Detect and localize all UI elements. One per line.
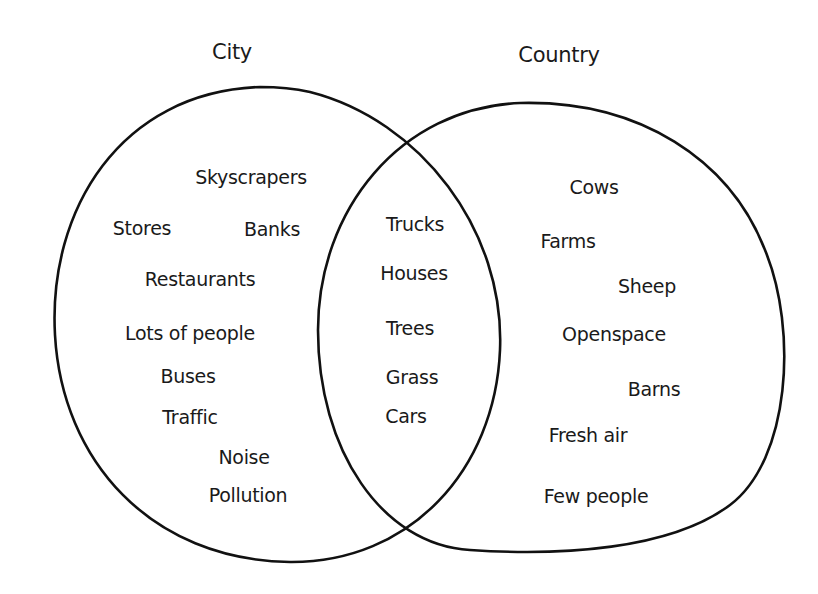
- city-item-noise: Noise: [218, 446, 269, 468]
- city-item-restaurants: Restaurants: [145, 268, 256, 290]
- both-item-houses: Houses: [380, 262, 448, 284]
- both-item-cars: Cars: [385, 405, 426, 427]
- country-item-farms: Farms: [540, 230, 595, 252]
- city-item-pollution: Pollution: [209, 484, 288, 506]
- city-set-title: City: [212, 40, 252, 64]
- both-item-grass: Grass: [386, 366, 438, 388]
- both-item-trucks: Trucks: [386, 213, 444, 235]
- country-item-sheep: Sheep: [618, 275, 676, 297]
- country-item-openspace: Openspace: [562, 323, 666, 345]
- city-item-banks: Banks: [244, 218, 300, 240]
- city-item-buses: Buses: [160, 365, 215, 387]
- city-item-stores: Stores: [113, 217, 171, 239]
- country-item-barns: Barns: [628, 378, 681, 400]
- country-item-cows: Cows: [569, 176, 618, 198]
- city-item-traffic: Traffic: [162, 406, 217, 428]
- city-item-lots-of-people: Lots of people: [125, 322, 255, 344]
- both-item-trees: Trees: [386, 317, 434, 339]
- venn-diagram: [0, 0, 818, 594]
- city-item-skyscrapers: Skyscrapers: [195, 166, 307, 188]
- country-item-few-people: Few people: [544, 485, 649, 507]
- country-item-fresh-air: Fresh air: [549, 424, 628, 446]
- country-set-title: Country: [518, 43, 599, 67]
